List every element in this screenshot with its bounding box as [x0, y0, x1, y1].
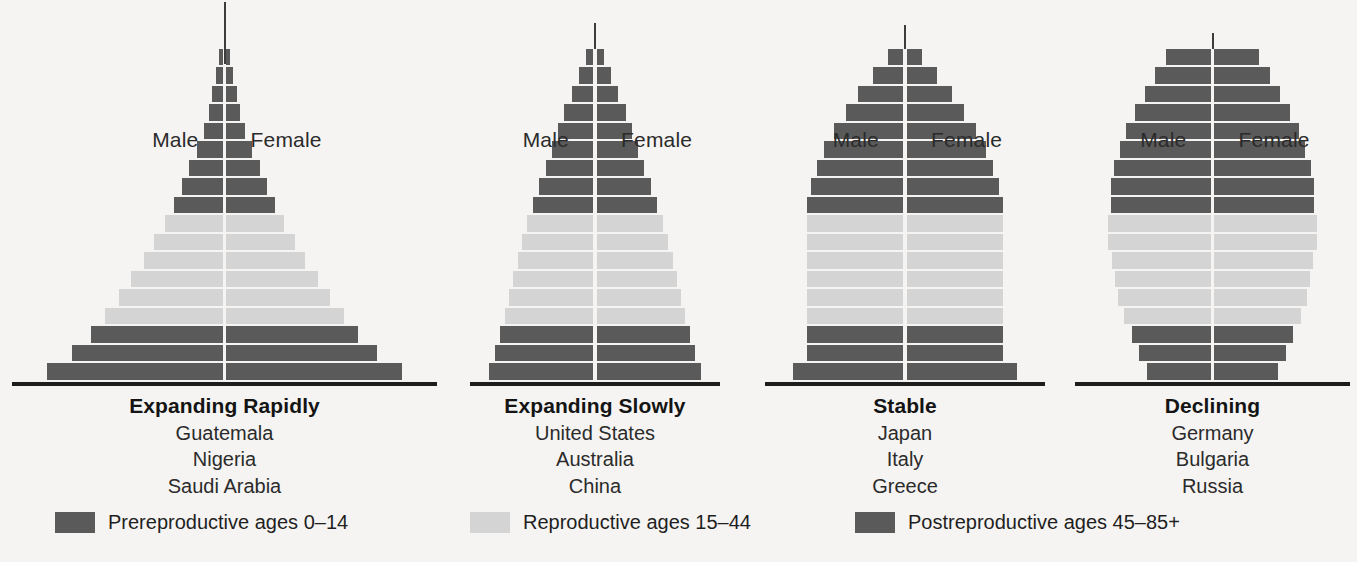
bar-male: [539, 178, 593, 194]
bar-male: [495, 345, 594, 361]
age-bar-row: [765, 49, 1045, 65]
bar-male: [212, 86, 223, 102]
age-bar-row: [12, 141, 437, 157]
bar-male: [144, 252, 223, 268]
bar-male: [793, 363, 903, 379]
age-bar-row: [12, 345, 437, 361]
pyramid-panel-stable: MaleFemaleStableJapanItalyGreece: [765, 0, 1045, 500]
bar-female: [597, 67, 612, 83]
age-bar-row: [470, 308, 720, 324]
bar-male: [811, 178, 903, 194]
bar-male: [131, 271, 223, 287]
age-bar-row: [765, 345, 1045, 361]
bar-female: [226, 271, 318, 287]
age-bar-row: [470, 326, 720, 342]
age-bar-row: [765, 363, 1045, 379]
age-bar-row: [1075, 86, 1350, 102]
age-bar-row: [765, 178, 1045, 194]
panel-title: Expanding Slowly: [470, 392, 720, 420]
male-axis-label: Male: [833, 128, 879, 152]
panel-country: Bulgaria: [1075, 446, 1350, 472]
age-bar-row: [12, 252, 437, 268]
panel-country: Italy: [765, 446, 1045, 472]
bar-female: [907, 197, 1004, 213]
bar-male: [165, 215, 223, 231]
age-bar-row: [12, 104, 437, 120]
bar-female: [907, 308, 1004, 324]
bar-male: [1108, 215, 1211, 231]
bar-male: [174, 197, 223, 213]
age-bar-row: [1075, 308, 1350, 324]
bar-female: [597, 215, 664, 231]
bar-male: [91, 326, 223, 342]
bar-male: [572, 86, 594, 102]
age-bar-row: [12, 197, 437, 213]
bar-female: [907, 86, 952, 102]
age-bar-row: [12, 326, 437, 342]
legend-label: Postreproductive ages 45–85+: [908, 511, 1180, 534]
age-bar-row: [470, 86, 720, 102]
age-bar-row: [1075, 234, 1350, 250]
bar-male: [197, 141, 223, 157]
bar-female: [1214, 215, 1317, 231]
legend-entry: Prereproductive ages 0–14: [55, 511, 348, 534]
legend-label: Reproductive ages 15–44: [523, 511, 751, 534]
legend-entry: Postreproductive ages 45–85+: [855, 511, 1180, 534]
bar-male: [1111, 197, 1211, 213]
age-bar-row: [765, 234, 1045, 250]
female-axis-label: Female: [621, 128, 692, 152]
bar-male: [807, 308, 904, 324]
bar-female: [226, 104, 240, 120]
female-axis-label: Female: [931, 128, 1002, 152]
bar-male: [1145, 86, 1211, 102]
bar-female: [226, 215, 284, 231]
baseline-axis: [12, 382, 437, 386]
bar-female: [1214, 363, 1278, 379]
bar-male: [1114, 160, 1211, 176]
bar-male: [873, 67, 904, 83]
female-axis-label: Female: [251, 128, 322, 152]
bar-female: [907, 252, 1004, 268]
bar-female: [597, 49, 604, 65]
legend-swatch: [470, 512, 510, 533]
age-bar-row: [1075, 326, 1350, 342]
bar-male: [219, 49, 223, 65]
female-axis-label: Female: [1239, 128, 1310, 152]
age-bar-row: [1075, 104, 1350, 120]
legend: Prereproductive ages 0–14Reproductive ag…: [0, 505, 1357, 545]
bar-female: [226, 345, 377, 361]
bar-female: [907, 363, 1017, 379]
age-bar-row: [1075, 252, 1350, 268]
bar-male: [807, 197, 904, 213]
panel-country: Nigeria: [12, 446, 437, 472]
bar-female: [226, 160, 259, 176]
pyramid-plot: [1075, 0, 1350, 382]
age-bar-row: [765, 215, 1045, 231]
age-bar-row: [1075, 345, 1350, 361]
bar-male: [858, 86, 903, 102]
panel-country: Japan: [765, 420, 1045, 446]
bar-female: [597, 345, 696, 361]
age-bar-row: [470, 104, 720, 120]
bar-female: [597, 104, 626, 120]
age-bar-row: [1075, 363, 1350, 379]
age-bar-row: [470, 49, 720, 65]
bar-female: [597, 271, 677, 287]
bar-female: [1214, 252, 1313, 268]
population-pyramid-figure: MaleFemaleExpanding RapidlyGuatemalaNige…: [0, 0, 1357, 562]
legend-entry: Reproductive ages 15–44: [470, 511, 751, 534]
bar-male: [513, 271, 593, 287]
bar-male: [1124, 308, 1211, 324]
bar-female: [1214, 197, 1314, 213]
bar-female: [226, 197, 275, 213]
panel-country: Russia: [1075, 473, 1350, 499]
age-bar-row: [470, 234, 720, 250]
bar-male: [189, 160, 222, 176]
age-bar-row: [12, 67, 437, 83]
pyramid-plot: [470, 0, 720, 382]
bar-male: [1112, 252, 1211, 268]
male-axis-label: Male: [1140, 128, 1186, 152]
bar-female: [597, 289, 681, 305]
bar-male: [1111, 178, 1211, 194]
pyramid-apex-spire: [224, 2, 226, 64]
